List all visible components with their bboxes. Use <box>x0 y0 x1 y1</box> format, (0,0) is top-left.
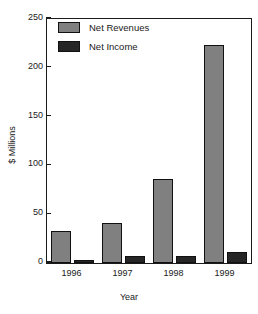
bar-chart: 050100150200250 1996199719981999 $ Milli… <box>0 0 258 314</box>
y-axis-title: $ Millions <box>7 115 17 175</box>
x-tick-label-1999: 1999 <box>199 268 250 278</box>
x-tick-label-1998: 1998 <box>148 268 199 278</box>
bar-1996-net-income <box>74 260 94 263</box>
y-tick-mark <box>46 164 51 165</box>
y-tick-label: 200 <box>28 61 43 71</box>
bar-1998-net-revenues <box>153 179 173 263</box>
legend-item-net-income: Net Income <box>58 41 149 52</box>
legend-swatch-icon <box>58 41 80 52</box>
x-tick-label-1996: 1996 <box>46 268 97 278</box>
y-tick-label: 0 <box>38 256 43 266</box>
legend-swatch-icon <box>58 22 80 33</box>
y-tick-label: 50 <box>33 207 43 217</box>
chart-legend: Net RevenuesNet Income <box>58 22 149 60</box>
legend-label: Net Income <box>89 41 138 52</box>
y-tick-mark <box>46 66 51 67</box>
y-tick-mark <box>46 115 51 116</box>
y-tick-mark <box>46 261 51 262</box>
x-tick-label-1997: 1997 <box>97 268 148 278</box>
y-tick-label: 150 <box>28 110 43 120</box>
legend-item-net-revenues: Net Revenues <box>58 22 149 33</box>
y-tick-label: 250 <box>28 12 43 22</box>
bar-1999-net-income <box>227 252 247 263</box>
y-tick-mark <box>46 17 51 18</box>
x-axis-title: Year <box>0 292 258 302</box>
bar-1999-net-revenues <box>204 45 224 263</box>
bar-1997-net-income <box>125 256 145 263</box>
legend-label: Net Revenues <box>89 22 149 33</box>
y-tick-mark <box>46 213 51 214</box>
y-tick-label: 100 <box>28 158 43 168</box>
bar-1997-net-revenues <box>102 223 122 263</box>
bar-1998-net-income <box>176 256 196 263</box>
bar-1996-net-revenues <box>51 231 71 263</box>
